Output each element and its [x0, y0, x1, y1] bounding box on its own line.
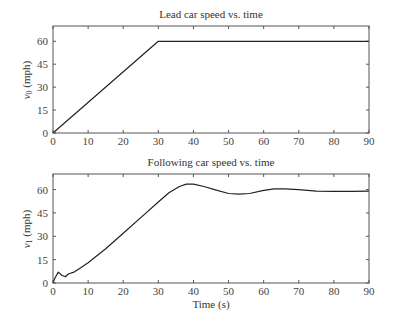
x-tick-label: 50	[223, 135, 235, 147]
x-tick-label: 80	[328, 285, 340, 297]
x-tick-label: 10	[83, 285, 95, 297]
x-tick-label: 50	[223, 285, 235, 297]
y-tick-label: 45	[37, 207, 49, 219]
x-tick-label: 40	[188, 285, 200, 297]
y-tick-label: 60	[37, 184, 49, 196]
x-tick-label: 20	[118, 135, 130, 147]
plot-title: Lead car speed vs. time	[159, 8, 263, 20]
y-tick-label: 0	[43, 277, 49, 289]
x-tick-label: 60	[258, 285, 270, 297]
x-axis-label: Time (s)	[192, 298, 230, 311]
lead-car-speed-plot: Lead car speed vs. time v0 (mph) 0102030…	[20, 8, 375, 147]
x-tick-label: 10	[83, 135, 95, 147]
v0-line	[53, 41, 369, 133]
figure: Lead car speed vs. time v0 (mph) 0102030…	[0, 0, 393, 325]
y-tick-label: 45	[37, 58, 49, 70]
x-tick-label: 80	[328, 135, 340, 147]
y-tick-label: 60	[37, 35, 49, 47]
y-tick-label: 30	[37, 230, 49, 242]
x-tick-label: 0	[50, 135, 56, 147]
y-tick-label: 30	[37, 81, 49, 93]
svg-text:v0 (mph): v0 (mph)	[20, 60, 34, 99]
x-tick-label: 90	[364, 285, 376, 297]
x-tick-label: 60	[258, 135, 270, 147]
x-tick-label: 70	[293, 135, 305, 147]
svg-text:v1 (mph): v1 (mph)	[20, 209, 34, 248]
y-tick-label: 15	[37, 254, 49, 266]
x-tick-label: 20	[118, 285, 130, 297]
axis-ticks: 0102030405060708090015304560	[37, 26, 375, 147]
axis-ticks: 0102030405060708090015304560	[37, 174, 375, 297]
y-tick-label: 15	[37, 104, 49, 116]
y-axis-label: v0 (mph)	[20, 60, 34, 99]
y-tick-label: 0	[43, 127, 49, 139]
following-car-speed-plot: Following car speed vs. time v1 (mph) 01…	[20, 156, 375, 311]
plot-frame	[53, 26, 369, 133]
x-tick-label: 90	[364, 135, 376, 147]
x-tick-label: 70	[293, 285, 305, 297]
x-tick-label: 0	[50, 285, 56, 297]
y-axis-label: v1 (mph)	[20, 209, 34, 248]
plot-title: Following car speed vs. time	[148, 156, 275, 168]
v1-line	[53, 184, 369, 283]
x-tick-label: 30	[153, 285, 165, 297]
x-tick-label: 30	[153, 135, 165, 147]
plot-frame	[53, 174, 369, 283]
x-tick-label: 40	[188, 135, 200, 147]
